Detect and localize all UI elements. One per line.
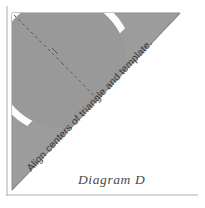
- diagram-canvas: Align centers of triangle and template. …: [0, 0, 205, 208]
- figure-caption: Diagram D: [77, 172, 145, 187]
- diagram-figure-container: Align centers of triangle and template. …: [0, 0, 205, 208]
